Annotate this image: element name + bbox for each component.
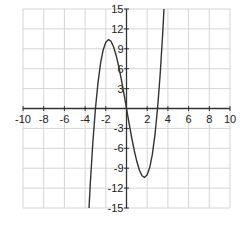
y-tick-label: -6 <box>114 142 124 154</box>
x-tick-label: 10 <box>224 113 236 125</box>
x-tick-label: 8 <box>206 113 212 125</box>
x-tick-label: 6 <box>186 113 192 125</box>
x-tick-label: -4 <box>80 113 90 125</box>
y-tick-label: -12 <box>108 182 124 194</box>
x-tick-label: -10 <box>15 113 31 125</box>
x-tick-labels: -10-8-6-4-2246810 <box>15 113 236 125</box>
x-tick-label: -6 <box>60 113 70 125</box>
function-graph: -10-8-6-4-2246810 1512963-3-6-9-12-15 <box>0 0 249 225</box>
y-tick-label: -15 <box>108 202 124 214</box>
y-tick-label: 15 <box>111 3 123 15</box>
x-tick-label: -2 <box>101 113 111 125</box>
x-tick-label: 4 <box>165 113 171 125</box>
y-tick-label: 12 <box>111 23 123 35</box>
x-tick-label: -8 <box>39 113 49 125</box>
y-tick-label: -3 <box>114 122 124 134</box>
y-tick-label: 9 <box>117 43 123 55</box>
x-tick-label: 2 <box>144 113 150 125</box>
y-tick-label: -9 <box>114 162 124 174</box>
